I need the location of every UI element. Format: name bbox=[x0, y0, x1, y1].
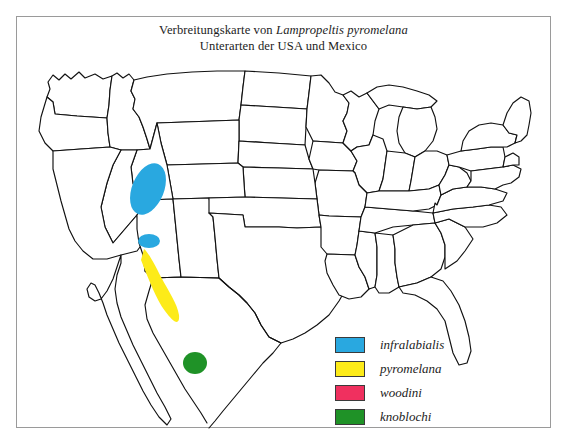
legend-swatch-woodini bbox=[335, 385, 365, 401]
state-south-dakota bbox=[239, 105, 307, 145]
map-title-species-name: Lampropeltis pyromelana bbox=[276, 23, 408, 37]
legend-item-infralabialis: infralabialis bbox=[335, 333, 535, 357]
legend-item-knoblochi: knoblochi bbox=[335, 405, 535, 429]
state-new-jersey bbox=[503, 153, 519, 167]
state-arkansas bbox=[319, 215, 361, 255]
state-michigan-lower bbox=[397, 107, 437, 157]
state-outlines-group bbox=[39, 71, 531, 365]
legend-label-woodini: woodini bbox=[380, 385, 422, 401]
map-title-prefix: Verbreitungskarte von bbox=[159, 23, 276, 37]
state-nebraska bbox=[238, 141, 313, 169]
scan-artifact-top-text bbox=[14, 0, 314, 5]
state-wyoming bbox=[157, 120, 239, 165]
legend-swatch-pyromelana bbox=[335, 361, 365, 377]
state-kansas bbox=[243, 167, 317, 199]
figure-inner: Verbreitungskarte von Lampropeltis pyrom… bbox=[17, 17, 550, 427]
state-colorado bbox=[167, 163, 245, 199]
map-legend: infralabialis pyromelana woodini knobloc… bbox=[335, 333, 535, 429]
mexico-west-coast-outline bbox=[145, 271, 207, 423]
state-minnesota bbox=[306, 75, 349, 143]
legend-label-infralabialis: infralabialis bbox=[380, 337, 444, 353]
map-title-line-1: Verbreitungskarte von Lampropeltis pyrom… bbox=[17, 23, 550, 39]
state-north-dakota bbox=[241, 71, 311, 109]
legend-label-knoblochi: knoblochi bbox=[380, 409, 431, 425]
legend-swatch-knoblochi bbox=[335, 409, 365, 425]
state-michigan-upper bbox=[367, 85, 437, 109]
state-georgia bbox=[393, 223, 445, 287]
range-knoblochi bbox=[183, 352, 207, 374]
legend-swatch-infralabialis bbox=[335, 337, 365, 353]
legend-item-pyromelana: pyromelana bbox=[335, 357, 535, 381]
figure-frame: Verbreitungskarte von Lampropeltis pyrom… bbox=[16, 16, 551, 428]
state-washington bbox=[47, 72, 112, 118]
legend-item-woodini: woodini bbox=[335, 381, 535, 405]
legend-label-pyromelana: pyromelana bbox=[380, 361, 442, 377]
range-infralabialis-secondary bbox=[138, 234, 160, 248]
